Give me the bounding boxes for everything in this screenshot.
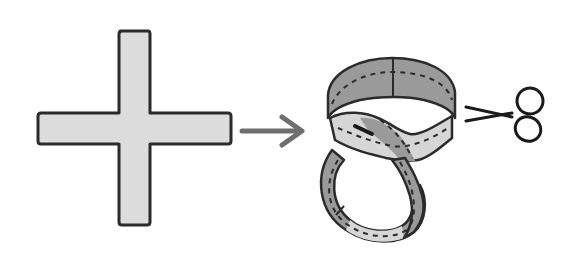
transform-arrow — [242, 117, 302, 145]
interlinked-paper-rings — [321, 58, 455, 242]
diagram-canvas: Paper cross shape is folded into two int… — [0, 0, 575, 265]
paper-cross — [38, 31, 231, 225]
scissors-icon — [466, 83, 548, 146]
